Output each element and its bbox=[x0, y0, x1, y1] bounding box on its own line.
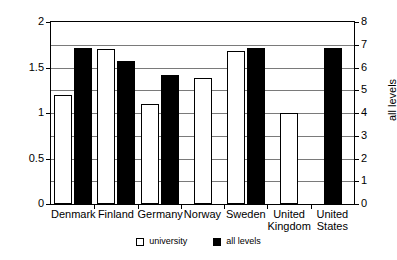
y-axis-right-tick-label: 1 bbox=[361, 175, 367, 186]
y-axis-right-tick-mark bbox=[355, 113, 359, 114]
y-axis-right-tick-label: 7 bbox=[361, 39, 367, 50]
bar-all-levels-finland bbox=[117, 61, 135, 204]
university-swatch-icon bbox=[136, 238, 144, 246]
y-axis-right-tick-mark bbox=[355, 181, 359, 182]
x-axis-label-norway: Norway bbox=[181, 208, 224, 220]
bar-group bbox=[181, 22, 224, 204]
bar-group bbox=[224, 22, 267, 204]
y-axis-left-tick-label: 1.5 bbox=[0, 62, 44, 73]
bar-university-sweden bbox=[227, 51, 245, 204]
bar-all-levels-sweden bbox=[247, 48, 265, 204]
bar-university-norway bbox=[194, 78, 212, 204]
x-axis-label-finland: Finland bbox=[94, 208, 137, 220]
y-axis-right-tick-mark bbox=[355, 22, 359, 23]
y-axis-left-tick-label: 0 bbox=[0, 198, 44, 209]
bar-chart: tertiary all levels 00.511.52 012345678 … bbox=[0, 0, 397, 260]
all-levels-swatch-icon bbox=[213, 238, 221, 246]
y-axis-left-tick-label: 2 bbox=[0, 16, 44, 27]
y-axis-right-tick-label: 2 bbox=[361, 153, 367, 164]
x-axis-label-sweden: Sweden bbox=[224, 208, 267, 220]
y-axis-right-tick-mark bbox=[355, 204, 359, 205]
bar-group bbox=[267, 22, 310, 204]
y-axis-right-tick-mark bbox=[355, 159, 359, 160]
y-axis-left-tick-mark bbox=[46, 204, 50, 205]
legend-label: all levels bbox=[226, 237, 261, 246]
y-axis-left-tick-label: 1 bbox=[0, 107, 44, 118]
y-axis-right-tick-label: 8 bbox=[361, 16, 367, 27]
y-axis-left-tick-mark bbox=[46, 68, 50, 69]
y-axis-right-tick-mark bbox=[355, 68, 359, 69]
y-axis-right-tick-mark bbox=[355, 45, 359, 46]
y-axis-right-tick-label: 3 bbox=[361, 130, 367, 141]
y-axis-left-tick-label: 0.5 bbox=[0, 153, 44, 164]
plot-area bbox=[50, 21, 355, 205]
y-axis-left-tick-mark bbox=[46, 22, 50, 23]
y-axis-right-tick-mark bbox=[355, 90, 359, 91]
y-axis-right-tick-mark bbox=[355, 136, 359, 137]
x-axis-label-united-kingdom: United Kingdom bbox=[267, 208, 310, 232]
bar-all-levels-united-states bbox=[324, 48, 342, 204]
bar-group bbox=[138, 22, 181, 204]
bar-group bbox=[94, 22, 137, 204]
bar-group bbox=[51, 22, 94, 204]
y-axis-left-tick-mark bbox=[46, 159, 50, 160]
legend-item-university[interactable]: university bbox=[136, 237, 187, 246]
bar-all-levels-denmark bbox=[74, 48, 92, 204]
bar-all-levels-germany bbox=[161, 75, 179, 204]
x-axis-label-united-states: United States bbox=[311, 208, 354, 232]
bar-university-denmark bbox=[54, 95, 72, 204]
chart-legend: universityall levels bbox=[0, 237, 397, 246]
y-axis-right-tick-label: 4 bbox=[361, 107, 367, 118]
y-axis-right-tick-label: 5 bbox=[361, 84, 367, 95]
y-axis-left-tick-mark bbox=[46, 113, 50, 114]
bar-university-united-kingdom bbox=[280, 113, 298, 204]
bar-university-finland bbox=[97, 49, 115, 204]
legend-label: university bbox=[149, 237, 187, 246]
y-axis-right-tick-label: 0 bbox=[361, 198, 367, 209]
bar-group bbox=[311, 22, 354, 204]
legend-item-all-levels[interactable]: all levels bbox=[213, 237, 261, 246]
bar-university-germany bbox=[141, 104, 159, 204]
y-axis-right-title: all levels bbox=[386, 70, 397, 130]
x-axis-label-denmark: Denmark bbox=[51, 208, 94, 220]
y-axis-right-tick-label: 6 bbox=[361, 62, 367, 73]
x-axis-label-germany: Germany bbox=[138, 208, 181, 220]
